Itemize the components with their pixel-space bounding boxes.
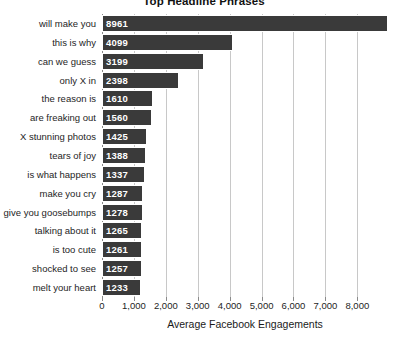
category-label: is what happens (0, 166, 99, 183)
category-label: this is why (0, 34, 99, 51)
bar-value-label: 1560 (106, 109, 128, 126)
x-tick-label: 2,000 (154, 300, 178, 311)
bar-row: 8961 (102, 15, 388, 32)
category-label: give you goosebumps (0, 204, 99, 221)
bar-row: 1425 (102, 128, 388, 145)
bar-value-label: 8961 (106, 15, 128, 32)
bar-row: 3199 (102, 53, 388, 70)
bar-value-label: 1337 (106, 166, 128, 183)
bar-row: 4099 (102, 34, 388, 51)
bar-chart: Top Headline Phrases will make youthis i… (0, 0, 408, 339)
x-tick-label: 5,000 (250, 300, 274, 311)
bar-row: 1610 (102, 90, 388, 107)
plot-area: 8961409931992398161015601425138813371287… (102, 14, 388, 297)
bar-value-label: 3199 (106, 53, 128, 70)
x-tick-label: 4,000 (218, 300, 242, 311)
bar-value-label: 1257 (106, 260, 128, 277)
chart-title: Top Headline Phrases (0, 0, 408, 7)
category-label: are freaking out (0, 109, 99, 126)
bar-value-label: 1425 (106, 128, 128, 145)
bar (102, 15, 388, 32)
x-tick-label: 6,000 (282, 300, 306, 311)
category-label: can we guess (0, 53, 99, 70)
x-axis-title: Average Facebook Engagements (102, 318, 388, 330)
bar-row: 1265 (102, 222, 388, 239)
value-axis: 01,0002,0003,0004,0005,0006,0007,0008,00… (102, 297, 388, 315)
bar-value-label: 1261 (106, 241, 128, 258)
bar-value-label: 1287 (106, 185, 128, 202)
x-tick-label: 7,000 (314, 300, 338, 311)
x-tick-label: 0 (99, 300, 104, 311)
category-label: is too cute (0, 241, 99, 258)
category-label: the reason is (0, 90, 99, 107)
bar-row: 1287 (102, 185, 388, 202)
category-label: will make you (0, 15, 99, 32)
category-axis-labels: will make youthis is whycan we guessonly… (0, 14, 99, 297)
x-tick-label: 3,000 (186, 300, 210, 311)
category-label: shocked to see (0, 260, 99, 277)
bar-value-label: 1278 (106, 204, 128, 221)
x-tick-label: 1,000 (122, 300, 146, 311)
bar-row: 1278 (102, 204, 388, 221)
bar-row: 2398 (102, 72, 388, 89)
category-label: make you cry (0, 185, 99, 202)
x-tick-label: 8,000 (345, 300, 369, 311)
bar-value-label: 4099 (106, 34, 128, 51)
bar-value-label: 1388 (106, 147, 128, 164)
bar-value-label: 2398 (106, 72, 128, 89)
category-label: only X in (0, 72, 99, 89)
bar-row: 1257 (102, 260, 388, 277)
category-label: tears of joy (0, 147, 99, 164)
category-label: talking about it (0, 222, 99, 239)
category-label: melt your heart (0, 279, 99, 296)
bars-layer: 8961409931992398161015601425138813371287… (102, 14, 388, 297)
bar-row: 1233 (102, 279, 388, 296)
bar-value-label: 1610 (106, 90, 128, 107)
bar-row: 1337 (102, 166, 388, 183)
bar-value-label: 1265 (106, 222, 128, 239)
bar-row: 1388 (102, 147, 388, 164)
bar-row: 1261 (102, 241, 388, 258)
bar-value-label: 1233 (106, 279, 128, 296)
category-label: X stunning photos (0, 128, 99, 145)
bar-row: 1560 (102, 109, 388, 126)
